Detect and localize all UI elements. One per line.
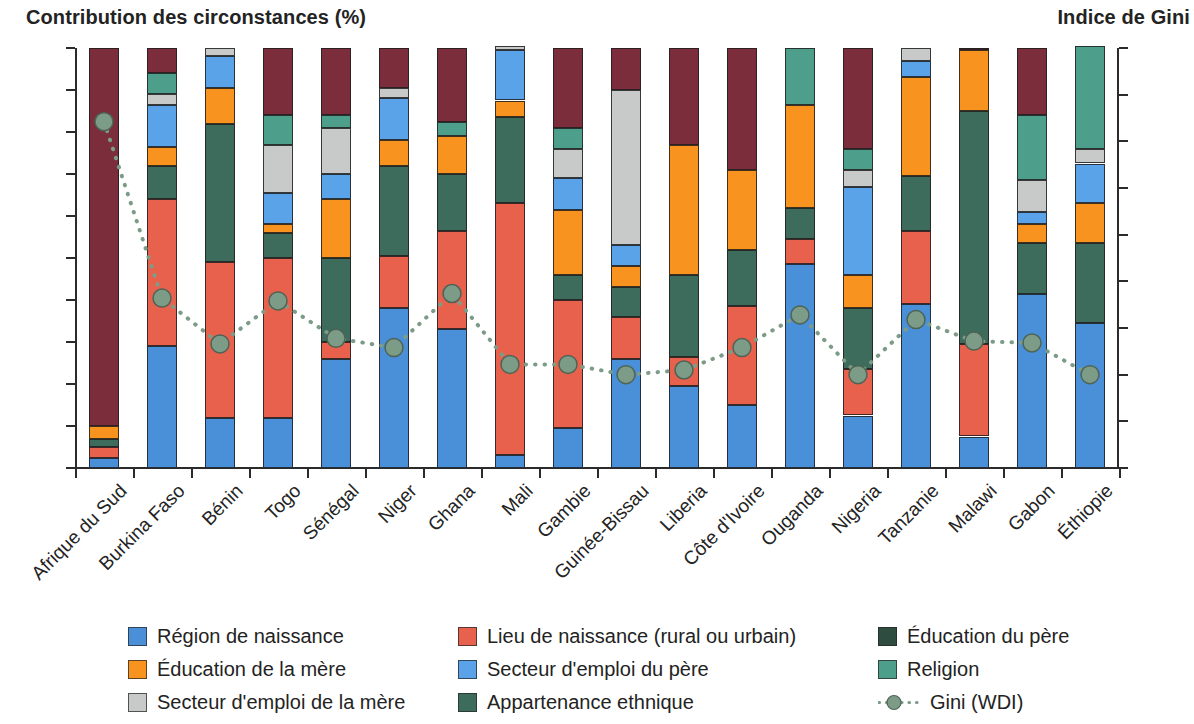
y-axis-right-tick <box>1119 280 1128 282</box>
legend-item-region_naissance[interactable]: Région de naissance <box>128 625 458 648</box>
x-axis-label: Sénégal <box>299 480 364 545</box>
chart-title-right: Indice de Gini <box>1057 6 1190 29</box>
chart-figure: Contribution des circonstances (%) Indic… <box>0 0 1194 724</box>
y-axis-left-tick <box>66 131 75 133</box>
x-axis-tick <box>887 468 889 478</box>
y-axis-left-tick <box>66 47 75 49</box>
x-axis-label: Bénin <box>198 480 248 530</box>
gini-line-icon <box>878 694 922 711</box>
y-axis-left-tick <box>66 425 75 427</box>
y-axis-left-tick <box>66 173 75 175</box>
legend-item-education_pere[interactable]: Éducation du père <box>878 625 1128 648</box>
chart-legend: Région de naissanceLieu de naissance (ru… <box>128 620 1128 719</box>
x-axis-label: Liberia <box>656 480 712 536</box>
x-axis-tick <box>75 468 77 478</box>
legend-swatch-secteur_pere <box>458 660 477 679</box>
x-axis-tick <box>539 468 541 478</box>
legend-label: Secteur d'emploi du père <box>487 658 709 681</box>
x-axis-tick <box>1119 468 1121 478</box>
x-axis-tick <box>945 468 947 478</box>
gini-marker[interactable] <box>443 285 461 303</box>
legend-label: Secteur d'emploi de la mère <box>157 691 405 714</box>
y-axis-left-tick <box>66 215 75 217</box>
gini-marker[interactable] <box>327 329 345 347</box>
gini-line-path <box>104 122 1090 375</box>
y-axis-right-tick <box>1119 140 1128 142</box>
x-axis-tick <box>1003 468 1005 478</box>
x-axis-tick <box>365 468 367 478</box>
legend-label: Lieu de naissance (rural ou urbain) <box>487 625 796 648</box>
x-axis-label: Ouganda <box>757 480 828 551</box>
gini-line-series <box>75 48 1119 468</box>
gini-marker[interactable] <box>95 113 113 131</box>
legend-swatch-secteur_mere <box>128 693 147 712</box>
x-axis-tick <box>1061 468 1063 478</box>
legend-row: Secteur d'emploi de la mèreAppartenance … <box>128 686 1128 719</box>
gini-marker[interactable] <box>211 335 229 353</box>
legend-item-ethnie[interactable]: Appartenance ethnique <box>458 691 878 714</box>
gini-marker[interactable] <box>559 355 577 373</box>
legend-swatch-religion <box>878 660 897 679</box>
y-axis-right-tick <box>1119 234 1128 236</box>
legend-row: Éducation de la mèreSecteur d'emploi du … <box>128 653 1128 686</box>
x-axis-label: Togo <box>261 480 306 525</box>
legend-row: Région de naissanceLieu de naissance (ru… <box>128 620 1128 653</box>
legend-label: Gini (WDI) <box>930 691 1023 714</box>
legend-item-secteur_pere[interactable]: Secteur d'emploi du père <box>458 658 878 681</box>
y-axis-right-tick <box>1119 47 1128 49</box>
x-axis-tick <box>713 468 715 478</box>
x-axis-label: Malawi <box>944 480 1001 537</box>
legend-swatch-lieu_naissance <box>458 627 477 646</box>
gini-marker[interactable] <box>153 289 171 307</box>
gini-marker[interactable] <box>907 311 925 329</box>
gini-marker[interactable] <box>849 366 867 384</box>
y-axis-left-tick <box>66 89 75 91</box>
y-axis-left-tick <box>66 383 75 385</box>
y-axis-left-tick <box>66 299 75 301</box>
x-axis-tick <box>771 468 773 478</box>
legend-label: Éducation de la mère <box>157 658 346 681</box>
x-axis-tick <box>249 468 251 478</box>
gini-marker[interactable] <box>501 355 519 373</box>
gini-marker[interactable] <box>1081 366 1099 384</box>
y-axis-left-tick <box>66 467 75 469</box>
x-axis-label: Mali <box>497 480 537 520</box>
x-axis-tick <box>423 468 425 478</box>
x-axis-label: Éthiopie <box>1053 480 1117 544</box>
legend-item-lieu_naissance[interactable]: Lieu de naissance (rural ou urbain) <box>458 625 878 648</box>
y-axis-right-tick <box>1119 374 1128 376</box>
legend-label: Appartenance ethnique <box>487 691 694 714</box>
y-axis-right-tick <box>1119 420 1128 422</box>
gini-marker[interactable] <box>269 292 287 310</box>
legend-item-religion[interactable]: Religion <box>878 658 1128 681</box>
x-axis-tick <box>481 468 483 478</box>
legend-swatch-region_naissance <box>128 627 147 646</box>
x-axis-label: Gabon <box>1004 480 1060 536</box>
gini-marker[interactable] <box>675 361 693 379</box>
gini-marker[interactable] <box>385 339 403 357</box>
y-axis-left-tick <box>66 341 75 343</box>
y-axis-left-tick <box>66 257 75 259</box>
gini-marker[interactable] <box>965 332 983 350</box>
y-axis-right-tick <box>1119 327 1128 329</box>
x-axis-label: Niger <box>374 480 422 528</box>
legend-item-secteur_mere[interactable]: Secteur d'emploi de la mère <box>128 691 458 714</box>
gini-marker[interactable] <box>791 306 809 324</box>
gini-marker[interactable] <box>1023 334 1041 352</box>
plot-area: 0102030405060708090100 25303540455055606… <box>75 48 1119 468</box>
chart-title-left: Contribution des circonstances (%) <box>26 6 366 29</box>
legend-swatch-education_pere <box>878 627 897 646</box>
gini-marker[interactable] <box>617 366 635 384</box>
legend-label: Éducation du père <box>907 625 1069 648</box>
legend-label: Région de naissance <box>157 625 344 648</box>
x-axis-tick <box>655 468 657 478</box>
gini-marker[interactable] <box>733 339 751 357</box>
legend-swatch-ethnie <box>458 693 477 712</box>
x-axis-label: Tanzanie <box>874 480 943 549</box>
x-axis-tick <box>829 468 831 478</box>
legend-item-gini[interactable]: Gini (WDI) <box>878 691 1128 714</box>
x-axis-tick <box>133 468 135 478</box>
legend-item-education_mere[interactable]: Éducation de la mère <box>128 658 458 681</box>
x-axis-label: Ghana <box>424 480 480 536</box>
y-axis-right-tick <box>1119 187 1128 189</box>
